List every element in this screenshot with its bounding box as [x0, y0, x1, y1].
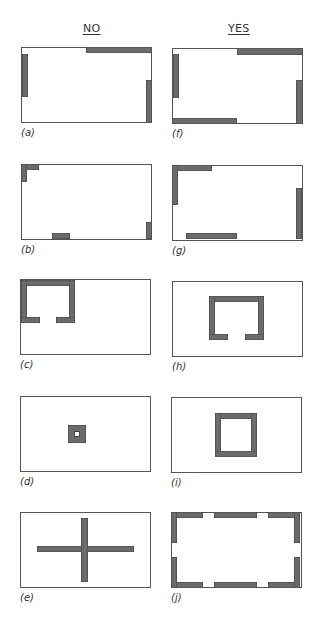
panel-label-h: (h) — [172, 361, 186, 372]
shape-segment — [171, 512, 177, 543]
panel-label-d: (d) — [20, 476, 34, 487]
shape-segment — [172, 165, 212, 171]
shape-segment — [245, 334, 264, 340]
panel-h — [172, 281, 303, 357]
panel-a — [21, 47, 152, 123]
shape-segment — [81, 518, 88, 582]
shape-segment — [214, 582, 257, 588]
shape-segment — [171, 557, 177, 588]
shape-segment — [173, 54, 179, 98]
shape-segment — [296, 80, 303, 124]
shape-segment — [21, 280, 75, 286]
panel-label-a: (a) — [21, 127, 35, 138]
panel-d — [20, 396, 151, 472]
panel-label-g: (g) — [172, 245, 186, 256]
shape-segment — [86, 47, 152, 53]
panel-g — [172, 165, 303, 241]
shape-segment — [294, 512, 300, 543]
panel-label-i: (i) — [171, 477, 182, 488]
shape-segment — [146, 222, 152, 239]
shape-segment — [186, 233, 237, 239]
panel-e — [20, 512, 151, 588]
shape-segment — [294, 557, 300, 588]
shape-segment — [296, 188, 302, 239]
panel-label-j: (j) — [171, 592, 182, 603]
shape-segment — [21, 317, 40, 323]
panel-label-c: (c) — [20, 359, 33, 370]
panel-j — [171, 512, 302, 588]
header-no: NO — [83, 22, 101, 35]
shape-segment — [56, 317, 75, 323]
panel-c — [20, 279, 151, 355]
shape-segment — [22, 54, 28, 97]
panel-label-f: (f) — [172, 128, 183, 139]
shape-segment — [214, 512, 257, 518]
header-yes: YES — [228, 22, 250, 35]
shape-segment — [237, 48, 303, 55]
shape-segment — [172, 165, 178, 205]
panel-label-b: (b) — [21, 244, 35, 255]
panel-i — [171, 397, 302, 473]
shape-segment — [52, 233, 70, 239]
panel-label-e: (e) — [20, 592, 34, 603]
shape-segment — [209, 296, 264, 302]
shape-segment — [215, 451, 257, 457]
panel-b — [21, 164, 152, 240]
shape-hole — [74, 431, 80, 437]
shape-segment — [21, 164, 27, 182]
shape-segment — [172, 118, 237, 124]
shape-segment — [146, 80, 152, 123]
panel-f — [172, 48, 303, 124]
shape-segment — [209, 334, 228, 340]
